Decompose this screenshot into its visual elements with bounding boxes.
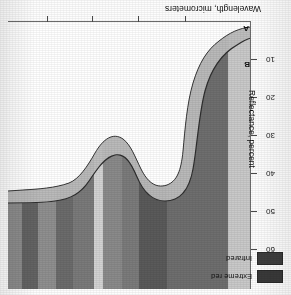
legend-item-extreme-red: Extreme red [211,270,283,283]
x-tick-3 [92,16,93,22]
y-axis-title: Reflectance, percent [247,90,257,168]
legend-label-infrared: Infrared [226,254,252,263]
x-tick-2 [138,16,139,22]
y-tick-label-30: 30 [266,131,275,140]
legend-swatch-extreme-red [257,270,283,283]
y-tick-label-40: 40 [266,169,275,178]
legend-item-infrared: Infrared [226,252,283,265]
y-tick-10 [251,59,257,60]
y-tick-label-50: 50 [266,207,275,216]
y-tick-label-20: 20 [266,93,275,102]
legend: Infrared Extreme red [163,247,283,283]
x-tick-4 [47,16,48,22]
y-tick-50 [251,211,257,212]
legend-label-extreme-red: Extreme red [211,272,252,281]
marker-label-a: A [243,24,249,33]
rotated-figure: B 10 20 30 40 50 60 Reflectance, percent… [0,0,291,295]
legend-swatch-infrared [257,252,283,265]
figure-page: B 10 20 30 40 50 60 Reflectance, percent… [0,0,291,295]
y-tick-40 [251,173,257,174]
x-tick-1 [185,16,186,22]
x-axis-line [8,21,251,22]
y-tick-label-10: 10 [266,55,275,64]
x-axis-title: Wavelength, micrometers [165,4,261,14]
